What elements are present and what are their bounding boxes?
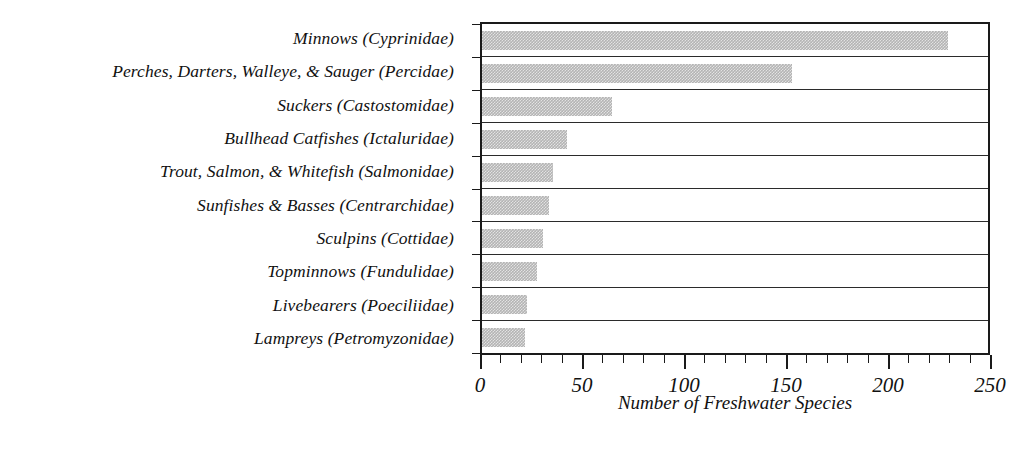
x-axis-minor-tick: [500, 355, 501, 363]
y-axis-tick: [472, 24, 482, 25]
x-axis-major-tick: [582, 355, 584, 369]
bar-row: [482, 57, 988, 90]
x-axis-minor-tick: [602, 355, 603, 363]
y-axis-tick: [472, 221, 482, 222]
y-axis-tick: [472, 254, 482, 255]
y-axis-tick: [472, 320, 482, 321]
y-axis-tick: [472, 353, 482, 354]
category-axis-labels: Minnows (Cyprinidae)Perches, Darters, Wa…: [0, 22, 466, 355]
bar: [482, 130, 567, 149]
category-label: Bullhead Catfishes (Ictaluridae): [0, 122, 466, 155]
x-axis-minor-tick: [949, 355, 950, 363]
x-axis-minor-tick: [806, 355, 807, 363]
x-axis-minor-tick: [725, 355, 726, 363]
y-axis-tick: [472, 287, 482, 288]
bar-row: [482, 123, 988, 156]
x-axis-minor-tick: [847, 355, 848, 363]
x-axis-minor-tick: [664, 355, 665, 363]
bar-row: [482, 222, 988, 255]
x-axis-minor-tick: [562, 355, 563, 363]
bar-row: [482, 156, 988, 189]
x-axis-minor-tick: [521, 355, 522, 363]
x-axis-title: Number of Freshwater Species: [480, 392, 990, 414]
bar-row: [482, 24, 988, 57]
x-axis-minor-tick: [970, 355, 971, 363]
category-label: Sunfishes & Basses (Centrarchidae): [0, 188, 466, 221]
x-axis-minor-tick: [908, 355, 909, 363]
bar: [482, 328, 525, 347]
y-axis-tick: [472, 123, 482, 124]
bar-row: [482, 90, 988, 123]
x-axis-minor-tick: [929, 355, 930, 363]
y-axis-tick: [472, 189, 482, 190]
category-label: Sculpins (Cottidae): [0, 222, 466, 255]
bar-row: [482, 321, 988, 353]
category-label: Livebearers (Poeciliidae): [0, 288, 466, 321]
bar-row: [482, 255, 988, 288]
bar: [482, 196, 549, 215]
x-axis-major-tick: [888, 355, 890, 369]
x-axis-minor-tick: [766, 355, 767, 363]
x-axis-major-tick: [480, 355, 482, 369]
x-axis-minor-tick: [704, 355, 705, 363]
category-label: Minnows (Cyprinidae): [0, 22, 466, 55]
bar: [482, 64, 792, 83]
bar: [482, 97, 612, 116]
bar-row: [482, 288, 988, 321]
category-label: Lampreys (Petromyzonidae): [0, 322, 466, 355]
bar-row: [482, 189, 988, 222]
bar: [482, 262, 537, 281]
bar: [482, 229, 543, 248]
bar-rows: [482, 24, 988, 353]
bar: [482, 163, 553, 182]
x-axis-minor-tick: [541, 355, 542, 363]
x-axis-major-tick: [786, 355, 788, 369]
category-label: Perches, Darters, Walleye, & Sauger (Per…: [0, 55, 466, 88]
x-axis-minor-tick: [827, 355, 828, 363]
plot-area: [480, 22, 990, 355]
x-axis-minor-tick: [643, 355, 644, 363]
category-label: Trout, Salmon, & Whitefish (Salmonidae): [0, 155, 466, 188]
category-label: Suckers (Castostomidae): [0, 89, 466, 122]
x-axis-minor-tick: [623, 355, 624, 363]
x-axis-minor-tick: [745, 355, 746, 363]
bar-chart: Minnows (Cyprinidae)Perches, Darters, Wa…: [0, 0, 1029, 452]
y-axis-tick: [472, 156, 482, 157]
x-axis-minor-tick: [868, 355, 869, 363]
y-axis-tick: [472, 90, 482, 91]
x-axis-major-tick: [990, 355, 992, 369]
bar: [482, 31, 948, 50]
category-label: Topminnows (Fundulidae): [0, 255, 466, 288]
x-axis-major-tick: [684, 355, 686, 369]
y-axis-tick: [472, 57, 482, 58]
bar: [482, 295, 527, 314]
